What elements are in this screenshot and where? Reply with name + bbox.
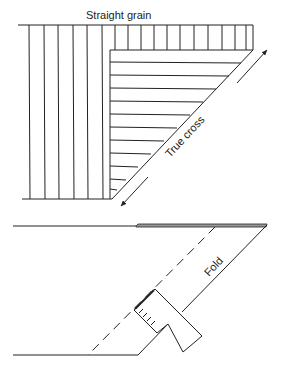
arrow-up-right-icon: [237, 50, 267, 83]
hem-gauge-icon: [134, 289, 202, 352]
straight-grain-panel: [18, 25, 253, 199]
bias-grain-diagram: Straight grain True cross Fold: [0, 0, 281, 378]
folded-fabric: [13, 224, 267, 355]
arrow-down-left-icon: [121, 177, 148, 206]
cross-grain-triangle: [110, 50, 253, 199]
straight-grain-label: Straight grain: [86, 9, 151, 21]
true-cross-label: True cross: [163, 113, 207, 159]
fold-label: Fold: [202, 255, 225, 279]
